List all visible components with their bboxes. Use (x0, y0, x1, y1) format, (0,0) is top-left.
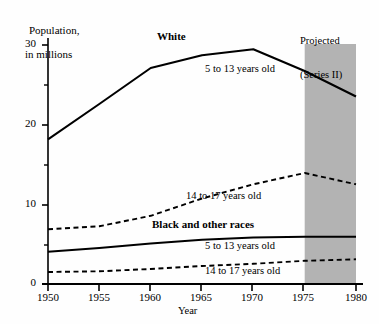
x-axis-title: Year (178, 305, 197, 316)
annotation-white-14-17: 14 to 17 years old (186, 190, 261, 201)
y-tick-label-30: 30 (14, 38, 36, 50)
annotation-white-5-13: 5 to 13 years old (205, 63, 275, 74)
x-tick-label-1965: 1965 (181, 292, 221, 304)
annotation-black-5-13: 5 to 13 years old (205, 240, 275, 251)
y-tick-label-10: 10 (14, 198, 36, 210)
x-tick-label-1975: 1975 (283, 292, 323, 304)
x-axis-ticks (48, 284, 356, 291)
projected-label-line2: (Series II) (300, 69, 342, 80)
x-tick-label-1950: 1950 (28, 292, 68, 304)
y-axis-title-line2: in millions (18, 49, 79, 61)
x-tick-label-1970: 1970 (232, 292, 272, 304)
x-tick-label-1980: 1980 (336, 292, 376, 304)
group-label-white: White (157, 31, 186, 43)
projected-label-line1: Projected (300, 35, 342, 46)
population-line-chart: Population, in millions Year 30 20 10 0 … (0, 0, 379, 324)
y-axis-title-line1: Population, (29, 24, 79, 36)
y-tick-label-20: 20 (14, 118, 36, 130)
annotation-black-14-17: 14 to 17 years old (205, 265, 280, 276)
x-tick-label-1955: 1955 (79, 292, 119, 304)
group-label-black-other-races: Black and other races (152, 219, 254, 231)
projected-region-label: Projected (Series II) (300, 12, 342, 103)
y-tick-label-0: 0 (14, 277, 36, 289)
x-tick-label-1960: 1960 (130, 292, 170, 304)
